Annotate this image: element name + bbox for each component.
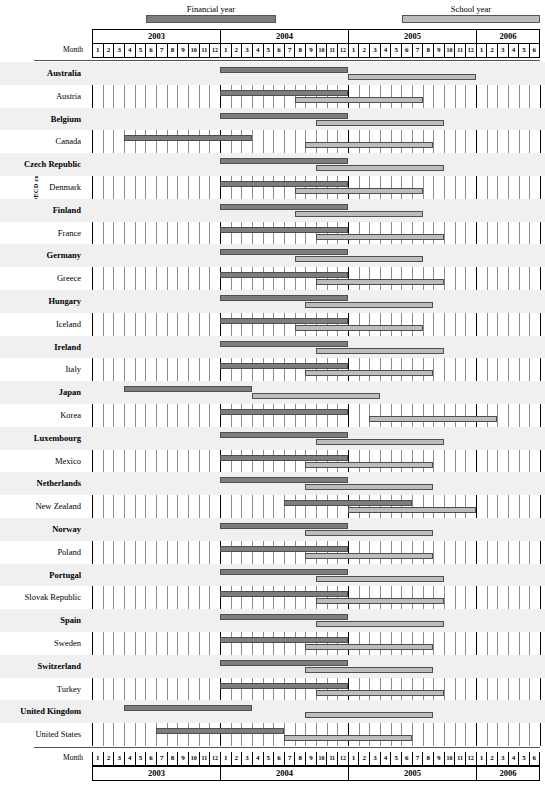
month-cell-2003-9: 9 <box>177 752 188 766</box>
month-cell-2004-1: 1 <box>220 752 231 766</box>
school-year-bar <box>305 712 433 718</box>
month-cell-2005-12: 12 <box>465 752 476 766</box>
month-cell-2005-10: 10 <box>444 752 455 766</box>
school-year-bar <box>348 74 476 80</box>
month-cell-2004-4: 4 <box>252 752 263 766</box>
school-year-bar <box>295 325 423 331</box>
month-cell-2004-10: 10 <box>316 44 327 58</box>
financial-year-bar <box>124 386 252 392</box>
year-cell-2006: 2006 <box>476 766 540 781</box>
plot-top-rule <box>34 60 540 61</box>
country-label: Hungary <box>0 290 86 313</box>
country-row: New Zealand <box>0 495 545 518</box>
month-cell-2005-4: 4 <box>380 44 391 58</box>
country-row: United States <box>0 723 545 746</box>
country-label: Canada <box>0 130 86 153</box>
month-cell-2005-3: 3 <box>369 752 380 766</box>
month-row-top: 1234567891011121234567891011121234567891… <box>92 44 540 58</box>
country-label: Mexico <box>0 450 86 473</box>
month-cell-2006-6: 6 <box>529 44 540 58</box>
country-label: United States <box>0 723 86 746</box>
financial-year-bar <box>220 363 348 369</box>
country-row: Turkey <box>0 678 545 701</box>
country-label: Spain <box>0 609 86 632</box>
month-cell-2004-7: 7 <box>284 752 295 766</box>
month-cell-2004-9: 9 <box>305 752 316 766</box>
year-cell-2006: 2006 <box>476 29 540 44</box>
x-axis-header-top: 2003200420052006 12345678910111212345678… <box>92 29 540 58</box>
month-cell-2006-5: 5 <box>518 752 529 766</box>
month-cell-2003-1: 1 <box>92 44 103 58</box>
country-label: Japan <box>0 381 86 404</box>
country-label: New Zealand <box>0 495 86 518</box>
financial-year-bar <box>220 546 348 552</box>
month-cell-2005-2: 2 <box>358 44 369 58</box>
month-cell-2004-5: 5 <box>263 752 274 766</box>
month-cell-2003-10: 10 <box>188 44 199 58</box>
school-year-bar <box>295 256 423 262</box>
financial-year-bar <box>220 637 348 643</box>
country-label: Poland <box>0 541 86 564</box>
school-year-bar <box>305 553 433 559</box>
month-cell-2005-11: 11 <box>454 44 465 58</box>
month-cell-2005-1: 1 <box>348 44 359 58</box>
country-row: Spain <box>0 609 545 632</box>
country-label: Norway <box>0 518 86 541</box>
month-cell-2006-5: 5 <box>518 44 529 58</box>
country-row: United Kingdom <box>0 700 545 723</box>
school-year-bar <box>305 142 433 148</box>
country-label: Portugal <box>0 564 86 587</box>
month-cell-2003-3: 3 <box>113 44 124 58</box>
country-label: Ireland <box>0 336 86 359</box>
country-label: Turkey <box>0 678 86 701</box>
month-cell-2003-5: 5 <box>135 44 146 58</box>
month-cell-2005-6: 6 <box>401 44 412 58</box>
school-year-bar <box>305 462 433 468</box>
month-cell-2005-2: 2 <box>358 752 369 766</box>
month-cell-2006-1: 1 <box>476 44 487 58</box>
financial-year-bar <box>284 500 412 506</box>
month-cell-2003-12: 12 <box>209 44 220 58</box>
month-cell-2004-6: 6 <box>273 752 284 766</box>
financial-year-bar <box>220 181 348 187</box>
month-cell-2005-5: 5 <box>390 752 401 766</box>
month-cell-2003-3: 3 <box>113 752 124 766</box>
country-row: Italy <box>0 358 545 381</box>
month-cell-2003-10: 10 <box>188 752 199 766</box>
country-row: Belgium <box>0 108 545 131</box>
school-year-bar <box>316 234 444 240</box>
country-row: Austria <box>0 85 545 108</box>
year-cell-2003: 2003 <box>92 766 220 781</box>
financial-year-bar <box>220 318 348 324</box>
month-cell-2003-5: 5 <box>135 752 146 766</box>
financial-year-bar <box>220 90 348 96</box>
financial-year-bar <box>220 660 348 666</box>
country-label: France <box>0 222 86 245</box>
financial-year-bar <box>220 158 348 164</box>
financial-year-bar <box>220 113 348 119</box>
financial-year-bar <box>220 477 348 483</box>
financial-year-bar <box>124 705 252 711</box>
school-year-bar <box>305 644 433 650</box>
country-label: Italy <box>0 358 86 381</box>
month-cell-2005-8: 8 <box>422 752 433 766</box>
month-cell-2005-9: 9 <box>433 752 444 766</box>
month-cell-2005-7: 7 <box>412 752 423 766</box>
school-year-bar <box>295 188 423 194</box>
month-cell-2004-2: 2 <box>231 752 242 766</box>
month-cell-2003-2: 2 <box>103 752 114 766</box>
month-cell-2006-3: 3 <box>497 752 508 766</box>
country-label: Czech Republic <box>0 153 86 176</box>
country-rows: AustraliaAustriaBelgiumCanadaCzech Repub… <box>0 62 545 746</box>
month-cell-2003-9: 9 <box>177 44 188 58</box>
school-year-bar <box>316 279 444 285</box>
school-year-bar <box>316 165 444 171</box>
month-cell-2004-11: 11 <box>326 44 337 58</box>
school-year-bar <box>284 735 412 741</box>
month-cell-2004-3: 3 <box>241 44 252 58</box>
legend-label-school-year: School year <box>402 4 540 14</box>
school-year-bar <box>305 530 433 536</box>
school-year-bar <box>305 370 433 376</box>
country-label: Luxembourg <box>0 427 86 450</box>
month-cell-2003-4: 4 <box>124 44 135 58</box>
